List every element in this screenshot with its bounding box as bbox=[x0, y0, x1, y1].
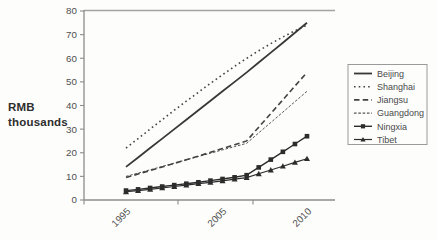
legend-label: Jiangsu bbox=[377, 95, 408, 105]
square-marker bbox=[184, 181, 189, 186]
square-marker bbox=[269, 157, 274, 162]
square-marker bbox=[124, 188, 129, 193]
series-line-shanghai bbox=[126, 25, 307, 148]
legend: BeijingShanghaiJiangsuGuangdongNingxiaTi… bbox=[348, 65, 427, 145]
square-marker bbox=[196, 180, 201, 185]
square-marker bbox=[208, 178, 213, 183]
axes bbox=[84, 10, 335, 200]
square-marker bbox=[160, 184, 165, 189]
square-marker bbox=[293, 142, 298, 147]
legend-label: Shanghai bbox=[377, 82, 415, 92]
square-marker bbox=[172, 183, 177, 188]
line-chart-figure: RMB thousands 01020304050607080199520052… bbox=[0, 0, 438, 240]
legend-label: Beijing bbox=[377, 69, 404, 79]
square-marker bbox=[305, 134, 310, 139]
y-axis-ticks: 01020304050607080 bbox=[66, 5, 84, 205]
square-marker bbox=[220, 177, 225, 182]
y-tick-label: 60 bbox=[66, 53, 77, 64]
y-tick-label: 20 bbox=[66, 147, 77, 158]
x-tick-label: 1995 bbox=[109, 205, 133, 229]
y-tick-label: 70 bbox=[66, 29, 77, 40]
y-tick-label: 30 bbox=[66, 124, 77, 135]
square-marker bbox=[256, 165, 261, 170]
y-tick-label: 40 bbox=[66, 100, 77, 111]
y-tick-label: 0 bbox=[72, 194, 78, 205]
legend-label: Guangdong bbox=[377, 108, 424, 118]
x-tick-label: 2005 bbox=[205, 205, 229, 229]
series-line-ningxia bbox=[126, 136, 307, 190]
square-marker bbox=[148, 186, 153, 191]
y-tick-label: 50 bbox=[66, 76, 77, 87]
series-beijing bbox=[126, 23, 307, 167]
x-tick-label: 2010 bbox=[290, 205, 314, 229]
chart-canvas: 01020304050607080199520052010BeijingShan… bbox=[0, 0, 438, 240]
series-jiangsu bbox=[126, 72, 307, 177]
square-marker bbox=[361, 124, 365, 128]
y-tick-label: 10 bbox=[66, 171, 77, 182]
square-marker bbox=[281, 150, 286, 155]
series-ningxia bbox=[124, 134, 310, 193]
series-line-jiangsu bbox=[126, 72, 307, 177]
triangle-marker bbox=[304, 156, 310, 161]
legend-label: Ningxia bbox=[377, 122, 407, 132]
series-shanghai bbox=[126, 25, 307, 148]
series-line-beijing bbox=[126, 23, 307, 167]
square-marker bbox=[244, 173, 249, 178]
series-line-tibet bbox=[126, 159, 307, 192]
x-axis-ticks: 199520052010 bbox=[84, 200, 314, 229]
square-marker bbox=[232, 175, 237, 180]
legend-label: Tibet bbox=[377, 135, 397, 145]
y-tick-label: 80 bbox=[66, 5, 77, 16]
square-marker bbox=[136, 187, 141, 192]
